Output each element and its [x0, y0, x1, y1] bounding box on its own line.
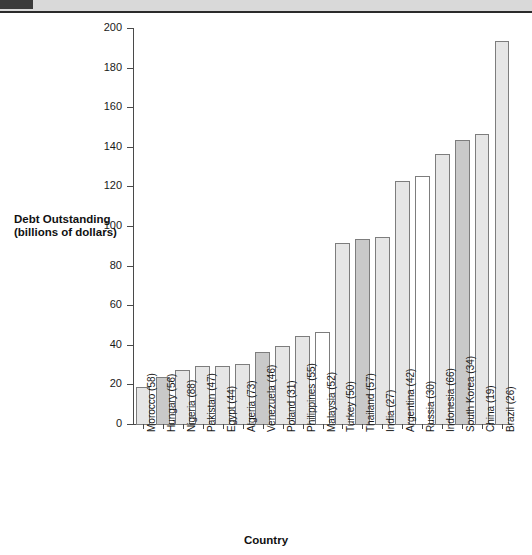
x-axis-tick: [143, 424, 144, 429]
x-axis-category-label: Poland (31): [287, 380, 297, 432]
bar[interactable]: [495, 41, 510, 425]
bars-layer: [133, 28, 512, 425]
y-axis-tick-label: 200: [0, 21, 122, 33]
x-axis-category-label: Nigeria (88): [187, 380, 197, 432]
y-axis-tick-label: 160: [0, 100, 122, 112]
x-axis-category-label: Egypt (44): [227, 386, 237, 432]
x-axis-tick: [442, 424, 443, 429]
x-axis-category-label: Hungary (56): [167, 374, 177, 432]
y-axis-title-line-1: Debt Outstanding: [14, 213, 126, 226]
x-axis-tick: [323, 424, 324, 429]
x-axis-tick: [502, 424, 503, 429]
x-axis-category-label: China (19): [486, 385, 496, 432]
y-axis-title-line-2: (billions of dollars): [14, 226, 126, 239]
x-axis-category-label: Brazil (26): [506, 386, 516, 432]
x-axis-category-label: Indonesia (66): [446, 368, 456, 432]
x-axis-tick: [163, 424, 164, 429]
x-axis-category-label: South Korea (34): [466, 356, 476, 432]
x-axis-category-label: Morocco (58): [147, 373, 157, 432]
x-axis-tick: [402, 424, 403, 429]
y-axis-tick-label: 20: [0, 377, 122, 389]
x-axis-tick: [462, 424, 463, 429]
x-axis-tick: [342, 424, 343, 429]
x-axis-tick: [263, 424, 264, 429]
x-axis-tick: [223, 424, 224, 429]
x-axis-category-label: India (27): [386, 390, 396, 432]
x-axis-title: Country: [0, 534, 532, 546]
x-axis-tick: [283, 424, 284, 429]
x-axis-tick: [482, 424, 483, 429]
y-axis-tick-label: 60: [0, 298, 122, 310]
y-axis-title: Debt Outstanding (billions of dollars): [14, 213, 126, 239]
y-axis-tick-label: 140: [0, 140, 122, 152]
x-axis-tick: [303, 424, 304, 429]
x-axis-category-label: Philippines (55): [307, 363, 317, 432]
bar-chart: 020406080100120140160180200 Debt Outstan…: [0, 0, 532, 555]
bar[interactable]: [475, 134, 490, 425]
x-axis-tick: [243, 424, 244, 429]
x-axis-tick: [382, 424, 383, 429]
x-axis-tick: [422, 424, 423, 429]
x-axis-category-label: Turkey (50): [346, 381, 356, 432]
x-axis-category-label: Malaysia (52): [327, 372, 337, 432]
x-axis-category-label: Russia (30): [426, 381, 436, 432]
y-axis-tick-label: 120: [0, 179, 122, 191]
y-axis-tick-label: 80: [0, 259, 122, 271]
x-axis-category-label: Algeria (73): [247, 380, 257, 432]
x-axis-category-label: Venezuela (46): [267, 365, 277, 432]
x-axis-tick: [203, 424, 204, 429]
x-axis-tick: [183, 424, 184, 429]
y-axis-tick-label: 0: [0, 417, 122, 429]
y-axis-tick-label: 40: [0, 338, 122, 350]
x-axis-category-label: Argentina (42): [406, 369, 416, 432]
y-axis-tick-label: 180: [0, 61, 122, 73]
x-axis-category-label: Thailand (57): [366, 373, 376, 432]
x-axis-category-label: Pakistan (47): [207, 373, 217, 432]
x-axis-tick: [362, 424, 363, 429]
